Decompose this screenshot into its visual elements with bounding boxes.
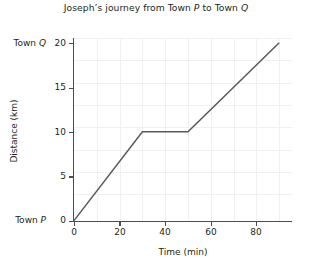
data-series-layer	[0, 0, 312, 268]
journey-line	[74, 43, 279, 221]
line-chart: Joseph’s journey from Town P to Town Q 2…	[0, 0, 312, 268]
